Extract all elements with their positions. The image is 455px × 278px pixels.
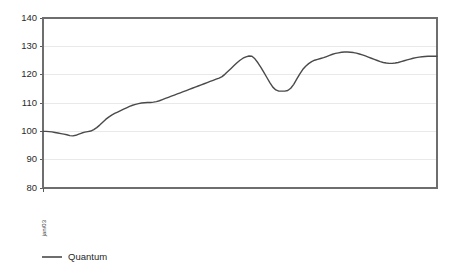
y-axis-tick-label: 130 [21,40,37,51]
line-chart: 8090100110120130140jan/03Quantum [0,0,455,278]
data-series-line [43,52,437,136]
y-axis-tick-label: 110 [22,97,37,108]
y-axis-tick-label: 140 [21,12,37,23]
y-axis-tick-label: 90 [26,153,37,164]
legend-label: Quantum [68,251,107,262]
chart-canvas: 8090100110120130140jan/03Quantum [0,0,455,278]
y-axis-tick-label: 120 [21,68,37,79]
y-axis-tick-label: 100 [21,125,37,136]
y-axis-tick-label: 80 [26,182,37,193]
x-axis-tick-label: jan/03 [41,219,47,237]
